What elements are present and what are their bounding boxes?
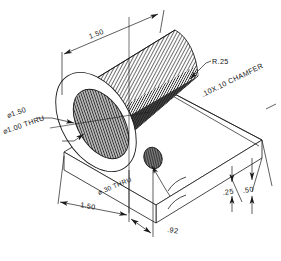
dimension-50-label: .50 [242, 185, 254, 195]
technical-drawing-canvas: 1.50 ⌀1.50 ⌀1.00 THRU R.25 .10X.10 CHAMF… [0, 0, 281, 261]
dimension-92-label: .92 [167, 225, 179, 235]
dimension-25-label: .25 [222, 187, 234, 197]
dimension-r-25-label: R.25 [212, 57, 229, 66]
isometric-part-drawing: 1.50 ⌀1.50 ⌀1.00 THRU R.25 .10X.10 CHAMF… [0, 0, 281, 261]
